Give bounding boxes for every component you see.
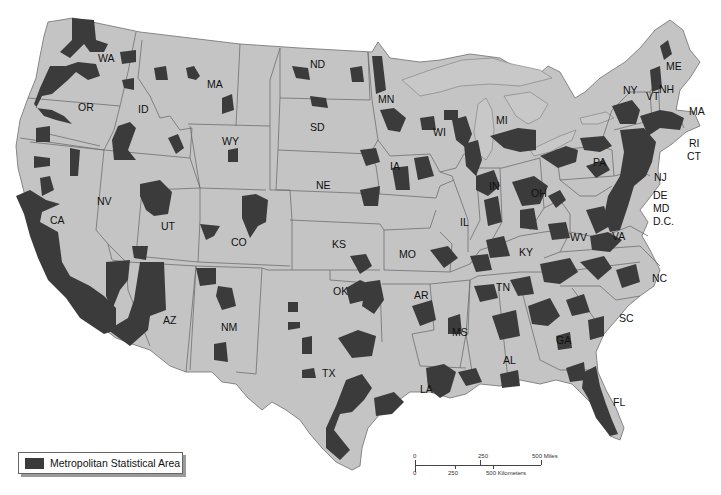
state-label-nm: NM [221,321,237,333]
state-label-ne: NE [316,179,331,191]
scale-km-250: 250 [448,470,458,476]
scale-tick [480,460,481,465]
state-label-nd: ND [310,58,326,70]
scale-miles-0: 0 [413,453,416,459]
state-label-nc: NC [652,272,668,284]
state-label-ok: OK [333,285,348,297]
state-label-ks: KS [332,238,346,250]
state-label-nj: NJ [654,171,667,183]
state-label-dc: D.C. [653,215,674,227]
state-label-va: VA [612,230,625,242]
state-label-wi: WI [433,126,446,138]
state-label-mn: MN [378,93,394,105]
state-label-tx: TX [322,367,335,379]
state-label-ct: CT [687,150,702,162]
state-label-co: CO [231,236,247,248]
state-label-wa: WA [98,52,115,64]
state-label-de: DE [653,189,668,201]
legend-label: Metropolitan Statistical Area [50,457,180,469]
scale-bar: 0 250 500 Miles 0 250 500 Kilometers [410,453,540,483]
state-label-ut: UT [161,220,176,232]
state-label-ms: MS [452,326,468,338]
state-label-ny: NY [623,84,638,96]
metro-swatch-icon [25,458,44,469]
us-metro-map: WAORIDMAWYCANVUTCOAZNMNDSDNEKSOKTXMNIAMO… [0,0,721,495]
scale-tick [541,460,542,465]
state-label-tn: TN [496,281,510,293]
scale-tick [455,465,456,469]
state-label-md: MD [653,202,670,214]
state-label-sc: SC [619,312,634,324]
state-label-nh: NH [659,83,674,95]
state-label-fl: FL [613,396,625,408]
state-label-mo: MO [399,248,416,260]
state-label-wy: WY [222,135,239,147]
state-label-ri: RI [689,137,700,149]
state-label-nv: NV [97,195,112,207]
state-label-al: AL [503,354,516,366]
state-label-vt: VT [646,90,660,102]
scale-km-0: 0 [413,470,416,476]
state-label-wv: WV [570,231,587,243]
scale-miles-500: 500 Miles [532,453,558,459]
state-label-mi: MI [496,114,508,126]
state-label-pa: PA [593,156,606,168]
scale-km-500: 500 Kilometers [486,470,526,476]
state-label-me: ME [666,60,682,72]
state-label-sd: SD [310,121,325,133]
state-label-in: IN [489,180,500,192]
scale-line [415,465,541,466]
state-label-ia: IA [390,160,400,172]
scale-miles-250: 250 [478,453,488,459]
state-label-id: ID [138,103,149,115]
state-label-or: OR [78,101,94,113]
state-label-ar: AR [414,289,429,301]
state-label-il: IL [460,216,469,228]
state-label-ky: KY [519,246,533,258]
scale-tick [493,465,494,469]
state-label-oh: OH [531,187,547,199]
state-label-la: LA [420,383,433,395]
state-label-ma: MA [207,78,223,90]
state-label-ma: MA [689,105,705,117]
map-legend: Metropolitan Statistical Area [18,452,183,474]
state-label-ca: CA [50,214,65,226]
state-label-az: AZ [163,314,177,326]
state-label-ga: GA [556,334,571,346]
